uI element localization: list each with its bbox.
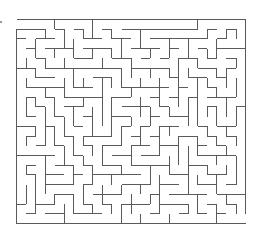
maze-board xyxy=(0,0,261,240)
corner-mark xyxy=(0,21,2,23)
maze-walls xyxy=(0,0,261,240)
